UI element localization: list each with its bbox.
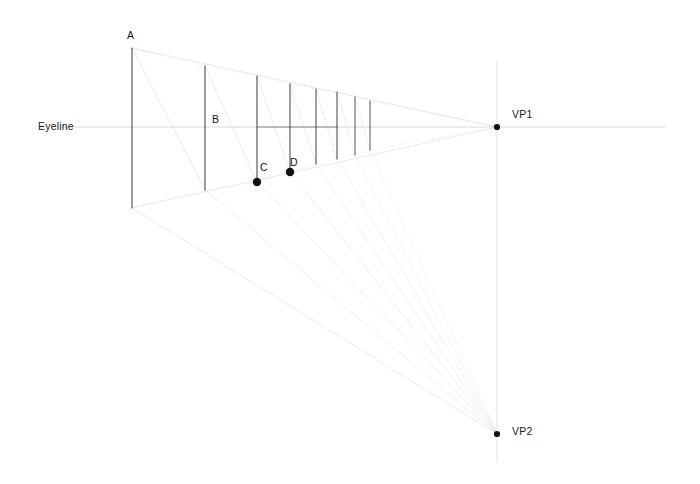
diagonal-segment-4 bbox=[316, 89, 337, 159]
vp1-convergence-line-1 bbox=[132, 127, 497, 208]
point-label-b: B bbox=[212, 114, 219, 125]
vp2-convergence-line-1 bbox=[205, 190, 497, 434]
top-chord-line-2 bbox=[257, 76, 290, 84]
ground-point-d bbox=[286, 168, 294, 176]
diagonal-segment-0 bbox=[132, 48, 205, 190]
top-chord-line-4 bbox=[316, 89, 337, 92]
top-chord-line-0 bbox=[132, 48, 205, 66]
point-label-a: A bbox=[127, 30, 134, 41]
vp2-convergence-line-4 bbox=[316, 164, 497, 434]
vp2-convergence-line-3 bbox=[290, 172, 497, 434]
vanishing-point-label-vp1: VP1 bbox=[512, 109, 532, 120]
top-chord-line-5 bbox=[337, 92, 370, 101]
vertical-lines-group bbox=[132, 48, 370, 208]
vp1-convergence-line-0 bbox=[132, 48, 497, 127]
diagonal-segment-6 bbox=[355, 97, 370, 150]
top-chord-line-6 bbox=[370, 101, 497, 127]
point-label-c: C bbox=[260, 162, 268, 173]
vanishing-point-dot-vp1 bbox=[494, 124, 500, 130]
top-chord-line-1 bbox=[205, 66, 257, 76]
bottom-chord-line-4 bbox=[370, 127, 497, 150]
bottom-chord-line-1 bbox=[205, 182, 257, 190]
bottom-chord-line-2 bbox=[257, 172, 290, 182]
perspective-construction-svg bbox=[0, 0, 700, 484]
vanishing-point-label-vp2: VP2 bbox=[512, 426, 532, 437]
vp2-convergence-line-5 bbox=[337, 159, 497, 434]
perspective-drawing-canvas: Eyeline A B C D VP1 VP2 bbox=[0, 0, 700, 484]
diagonal-segment-2 bbox=[257, 76, 290, 172]
ground-point-c bbox=[253, 178, 261, 186]
diagonal-segments-group bbox=[132, 48, 370, 190]
bottom-chord-line-0 bbox=[132, 190, 205, 208]
point-label-d: D bbox=[290, 157, 298, 168]
diagonal-segment-3 bbox=[290, 84, 316, 164]
eyeline-label: Eyeline bbox=[38, 121, 74, 132]
vp2-convergence-line-6 bbox=[355, 155, 497, 434]
vp1-convergence-lines-group bbox=[132, 48, 497, 208]
diagonal-segment-5 bbox=[337, 92, 355, 155]
vp2-convergence-lines-group bbox=[132, 150, 497, 434]
vp2-convergence-line-7 bbox=[370, 150, 497, 434]
vanishing-point-dot-vp2 bbox=[494, 431, 500, 437]
